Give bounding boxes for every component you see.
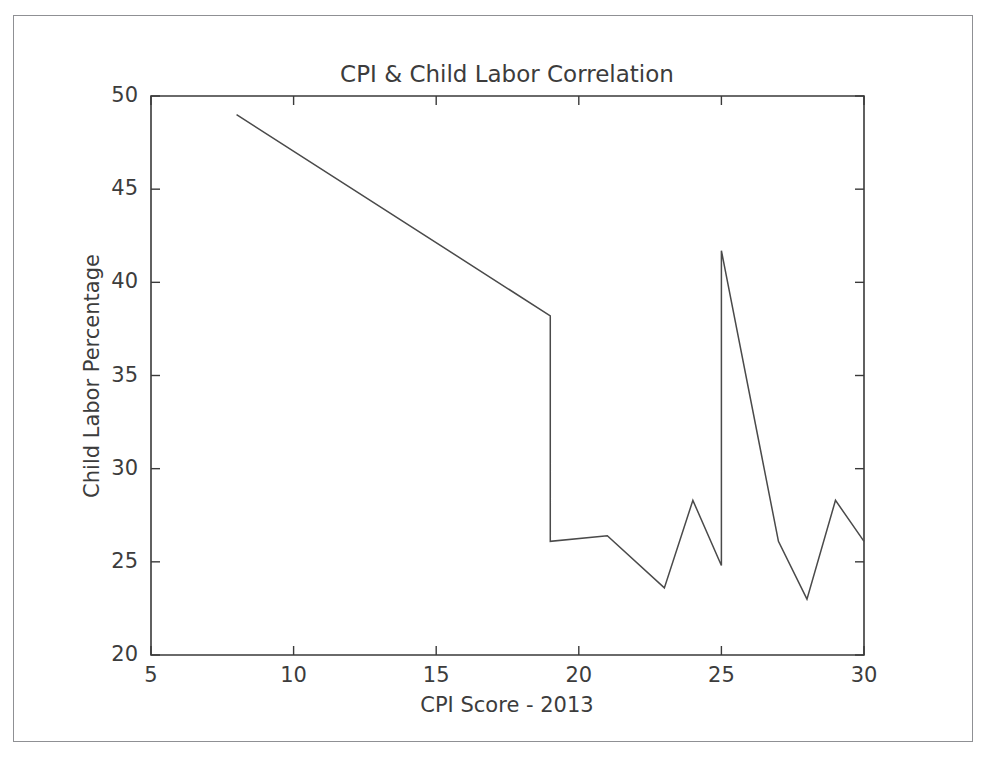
- y-axis-ticks: 20253035404550: [111, 83, 864, 666]
- x-tick-label: 5: [144, 663, 157, 687]
- y-tick-label: 30: [111, 456, 138, 480]
- data-line-child-labor: [237, 115, 864, 599]
- y-tick-label: 45: [111, 176, 138, 200]
- y-axis-label: Child Labor Percentage: [80, 254, 104, 498]
- y-tick-label: 20: [111, 642, 138, 666]
- x-tick-label: 20: [565, 663, 592, 687]
- x-tick-label: 30: [851, 663, 878, 687]
- chart-figure: CPI & Child Labor Correlation 2025303540…: [0, 0, 990, 757]
- figure-page: CPI & Child Labor Correlation 2025303540…: [0, 0, 990, 757]
- data-series-group: [237, 115, 864, 599]
- x-axis-ticks: 51015202530: [144, 96, 877, 687]
- x-tick-label: 15: [423, 663, 450, 687]
- y-axis-label-group: Child Labor Percentage: [80, 254, 104, 498]
- x-axis-label: CPI Score - 2013: [420, 693, 593, 717]
- chart-title-group: CPI & Child Labor Correlation: [340, 61, 674, 87]
- line-chart: CPI & Child Labor Correlation 2025303540…: [0, 0, 990, 757]
- y-tick-label: 40: [111, 269, 138, 293]
- x-axis-label-group: CPI Score - 2013: [420, 693, 593, 717]
- y-tick-label: 25: [111, 549, 138, 573]
- axis-frame: [151, 96, 864, 655]
- axes-group: [151, 96, 864, 655]
- x-tick-label: 10: [280, 663, 307, 687]
- x-tick-label: 25: [708, 663, 735, 687]
- y-tick-label: 50: [111, 83, 138, 107]
- chart-title: CPI & Child Labor Correlation: [340, 61, 674, 87]
- y-tick-label: 35: [111, 363, 138, 387]
